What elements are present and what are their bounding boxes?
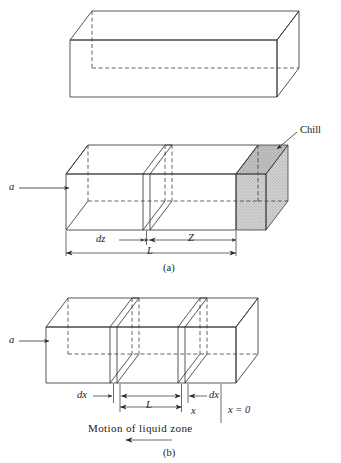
motion-of-liquid-zone-label: Motion of liquid zone (88, 423, 193, 434)
panel-b-dx-slab-left (110, 298, 139, 383)
panel-b-origin-label: x = 0 (228, 405, 250, 416)
panel-b-bar (46, 298, 258, 383)
panel-a-dz-label: dz (96, 234, 105, 245)
top-bar-right-face (277, 11, 299, 97)
panel-b-L-label: L (146, 400, 152, 411)
panel-b-dx-right-label: dx (209, 390, 219, 401)
panel-a-dz-slab (143, 145, 172, 230)
panel-b-inlet-label: a (9, 335, 14, 346)
panel-b-front-face (46, 327, 236, 383)
panel-b-top-face (46, 298, 258, 327)
panel-b-x-label: x (191, 406, 196, 417)
panel-a-left-end-face (66, 145, 88, 230)
panel-b-dx-slab-right (178, 298, 207, 383)
panel-a-hidden-edges (88, 145, 258, 201)
panel-a-caption: (a) (163, 263, 175, 274)
figure-svg (0, 0, 341, 463)
panel-b-caption: (b) (163, 448, 175, 459)
panel-top-bar (70, 11, 299, 97)
panel-a-bar (66, 145, 288, 230)
top-bar-top-face (70, 11, 299, 40)
panel-a-inlet-label: a (9, 182, 14, 193)
panel-a-L-label: L (147, 246, 153, 257)
panel-b-dx-left-label: dx (77, 390, 87, 401)
top-bar-front-face (70, 40, 277, 97)
chill-label: Chill (300, 125, 321, 136)
panel-b-hidden-edges (68, 298, 258, 354)
panel-b-right-face (236, 298, 258, 383)
panel-a-front-face (66, 174, 236, 230)
chill-block (236, 145, 288, 230)
panel-a-Z-label: Z (188, 233, 194, 244)
top-bar-hidden-edges (92, 11, 299, 68)
figure-root: a Chill dz Z L (a) a dx dx L x x = 0 Mot… (0, 0, 341, 463)
